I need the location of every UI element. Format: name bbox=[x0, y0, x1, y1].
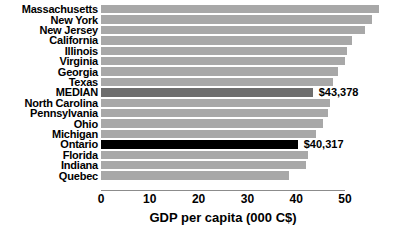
x-tick-label: 40 bbox=[290, 193, 303, 206]
bar-track bbox=[101, 171, 289, 179]
bar-row: California bbox=[0, 35, 399, 45]
bar-track bbox=[101, 99, 330, 107]
x-axis-tick-labels: 01020304050 bbox=[0, 193, 399, 209]
bar bbox=[101, 99, 330, 107]
bar bbox=[101, 5, 379, 13]
bar-track bbox=[101, 88, 313, 96]
bar-row: Quebec bbox=[0, 170, 399, 180]
bar bbox=[101, 130, 316, 138]
x-tick-label: 30 bbox=[241, 193, 254, 206]
bar-row: Pennsylvania bbox=[0, 108, 399, 118]
bar bbox=[101, 67, 338, 75]
x-tick-label: 0 bbox=[98, 193, 105, 206]
x-tick-label: 50 bbox=[338, 193, 351, 206]
bar bbox=[101, 88, 313, 96]
bar-row: Georgia bbox=[0, 66, 399, 76]
bar-track bbox=[101, 140, 298, 148]
x-tick-label: 20 bbox=[192, 193, 205, 206]
bar-value-label: $43,378 bbox=[319, 87, 359, 98]
figure-caption bbox=[0, 233, 399, 243]
bar bbox=[101, 47, 347, 55]
bar-track bbox=[101, 15, 372, 23]
bar-track bbox=[101, 130, 316, 138]
bar bbox=[101, 109, 328, 117]
bar bbox=[101, 119, 323, 127]
bar bbox=[101, 78, 333, 86]
category-label: Quebec bbox=[59, 170, 98, 181]
bar bbox=[101, 36, 352, 44]
bar-track bbox=[101, 36, 352, 44]
bar-track bbox=[101, 57, 345, 65]
x-axis-title: GDP per capita (000 C$) bbox=[101, 211, 345, 225]
bar-track bbox=[101, 78, 333, 86]
bar bbox=[101, 161, 306, 169]
bar-row: Ontario$40,317 bbox=[0, 139, 399, 149]
x-axis-line bbox=[101, 190, 345, 191]
plot-area: MassachusettsNew YorkNew JerseyCaliforni… bbox=[0, 0, 399, 190]
bar-track bbox=[101, 26, 365, 34]
bar-track bbox=[101, 109, 328, 117]
gdp-per-capita-bar-chart: MassachusettsNew YorkNew JerseyCaliforni… bbox=[0, 0, 399, 243]
bar-row: Florida bbox=[0, 150, 399, 160]
x-tick-label: 10 bbox=[143, 193, 156, 206]
bar-track bbox=[101, 161, 306, 169]
bar-value-label: $40,317 bbox=[304, 139, 344, 150]
bar bbox=[101, 15, 372, 23]
bar-track bbox=[101, 151, 308, 159]
bar bbox=[101, 151, 308, 159]
bar-track bbox=[101, 47, 347, 55]
bar bbox=[101, 140, 298, 148]
bar-track bbox=[101, 67, 338, 75]
bar-track bbox=[101, 119, 323, 127]
bar bbox=[101, 171, 289, 179]
bar bbox=[101, 26, 365, 34]
bar-track bbox=[101, 5, 379, 13]
bar bbox=[101, 57, 345, 65]
